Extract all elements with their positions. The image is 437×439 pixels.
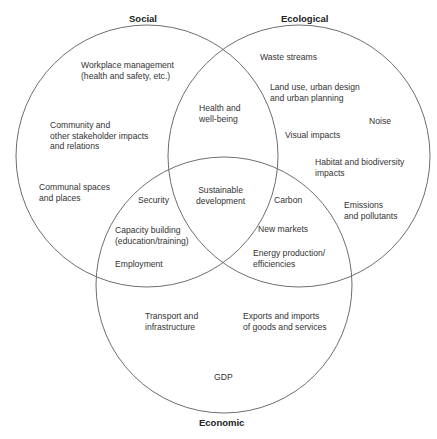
label-transport-infrastructure: Transport and infrastructure — [145, 311, 198, 332]
label-energy-production: Energy production/ efficiencies — [253, 248, 325, 269]
label-workplace-management: Workplace management (health and safety,… — [81, 60, 174, 81]
label-exports-imports: Exports and imports of goods and service… — [243, 311, 327, 332]
label-new-markets: New markets — [258, 224, 308, 235]
label-employment: Employment — [115, 259, 163, 270]
label-waste-streams: Waste streams — [260, 52, 317, 63]
label-habitat-biodiversity: Habitat and biodiversity impacts — [315, 157, 404, 178]
label-health-well-being: Health and well-being — [199, 103, 241, 124]
label-security: Security — [138, 195, 169, 206]
label-communal-spaces: Communal spaces and places — [39, 182, 110, 203]
label-gdp: GDP — [214, 372, 233, 383]
social-title: Social — [129, 13, 157, 24]
economic-title: Economic — [199, 417, 244, 428]
label-capacity-building: Capacity building (education/training) — [115, 225, 189, 246]
label-carbon: Carbon — [274, 195, 302, 206]
label-community-stakeholder: Community and other stakeholder impacts … — [50, 120, 148, 152]
label-emissions-pollutants: Emissions and pollutants — [344, 200, 398, 221]
label-visual-impacts: Visual impacts — [285, 130, 340, 141]
label-land-use: Land use, urban design and urban plannin… — [270, 82, 360, 103]
ecological-title: Ecological — [281, 13, 329, 24]
label-noise: Noise — [369, 116, 391, 127]
label-sustainable-development: Sustainable development — [196, 185, 245, 206]
